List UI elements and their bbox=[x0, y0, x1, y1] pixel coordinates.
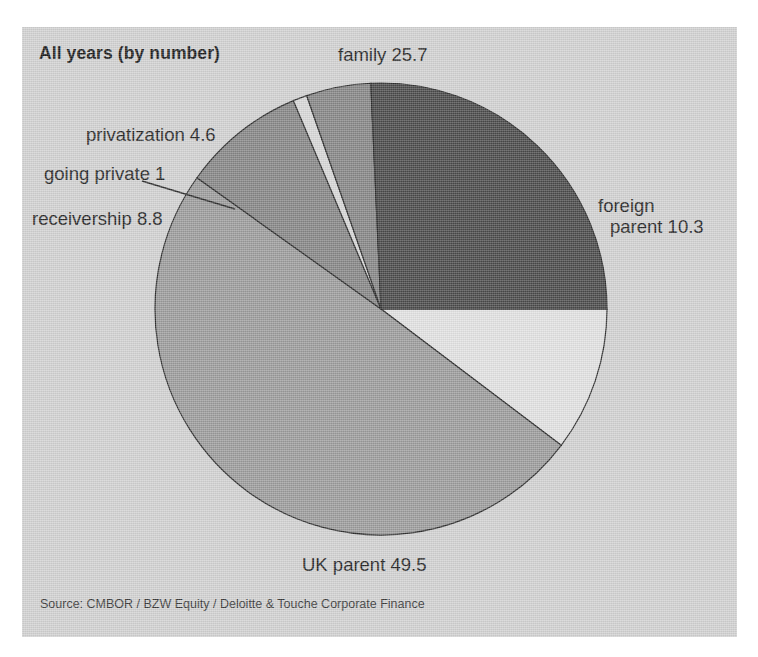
slice-label-foreign-parent: foreign parent 10.3 bbox=[598, 195, 704, 238]
slice-label-uk-parent: UK parent 49.5 bbox=[302, 554, 426, 575]
slice-label-going-private: going private 1 bbox=[44, 163, 165, 184]
pie-slices bbox=[155, 83, 607, 535]
chart-panel: All years (by number) family 25.7 foreig… bbox=[22, 27, 737, 637]
pie-chart bbox=[22, 27, 737, 637]
slice-label-family: family 25.7 bbox=[338, 44, 427, 65]
slice-label-receivership: receivership 8.8 bbox=[32, 208, 163, 229]
source-note: Source: CMBOR / BZW Equity / Deloitte & … bbox=[40, 597, 425, 611]
slice-label-foreign-parent-line1: foreign bbox=[598, 195, 655, 216]
slice-label-privatization: privatization 4.6 bbox=[86, 124, 216, 145]
slice-label-foreign-parent-line2: parent 10.3 bbox=[598, 216, 704, 237]
pie-slice-family bbox=[371, 83, 607, 309]
